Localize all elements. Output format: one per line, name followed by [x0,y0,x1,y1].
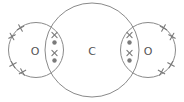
shared-electron-dot [52,40,56,44]
shared-electron-dot [127,58,131,62]
atom-label-carbon: C [88,45,96,58]
shared-electron-cross [127,50,132,55]
shared-electron-cross [52,50,57,55]
lone-pair-electron-cross [168,61,174,67]
lone-pair-electron-cross [10,61,16,67]
diagram-canvas: O C O [0,0,184,102]
shared-electron-cross [127,32,132,37]
lone-pair-electron-cross [169,33,175,39]
atom-label-oxygen-left: O [31,45,40,58]
shared-electron-dot [52,58,56,62]
atom-label-oxygen-right: O [144,45,153,58]
co2-dot-cross-diagram: O C O [0,0,184,102]
shared-electron-dot [127,40,131,44]
shared-electron-cross [52,32,57,37]
lone-pair-electron-cross [9,33,15,39]
